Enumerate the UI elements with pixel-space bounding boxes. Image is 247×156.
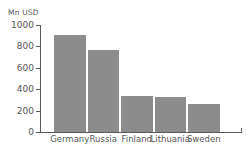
y-axis-tick-label: 0 — [6, 127, 34, 137]
bar — [188, 104, 220, 132]
y-axis-tick-label: 800 — [6, 41, 34, 51]
bar — [155, 97, 187, 132]
y-axis-tick-label: 400 — [6, 84, 34, 94]
x-axis-tick-label: Russia — [90, 134, 117, 144]
y-axis-tick-mark — [36, 89, 40, 90]
bar-chart: Mn USD 02004006008001000 GermanyRussiaFi… — [0, 0, 247, 156]
x-axis-tick-label: Lithuania — [151, 134, 190, 144]
bar — [54, 35, 86, 132]
y-axis-tick-mark — [36, 46, 40, 47]
y-axis-tick-label: 1000 — [6, 20, 34, 30]
bar-series — [41, 0, 242, 156]
y-axis-tick-mark — [36, 132, 40, 133]
x-axis-tick-label: Finland — [122, 134, 152, 144]
plot-area: 02004006008001000 GermanyRussiaFinlandLi… — [0, 0, 247, 156]
x-axis-tick-label: Germany — [50, 134, 89, 144]
x-axis-tick-labels: GermanyRussiaFinlandLithuaniaSweden — [41, 134, 242, 152]
y-axis-tick-mark — [36, 111, 40, 112]
x-axis-tick-label: Sweden — [187, 134, 221, 144]
y-axis-tick-mark — [36, 25, 40, 26]
y-axis-tick-label: 600 — [6, 63, 34, 73]
y-axis-tick-label: 200 — [6, 106, 34, 116]
bar — [121, 96, 153, 132]
y-axis-tick-labels: 02004006008001000 — [6, 0, 34, 156]
y-axis-tick-mark — [36, 68, 40, 69]
bar — [88, 50, 120, 132]
